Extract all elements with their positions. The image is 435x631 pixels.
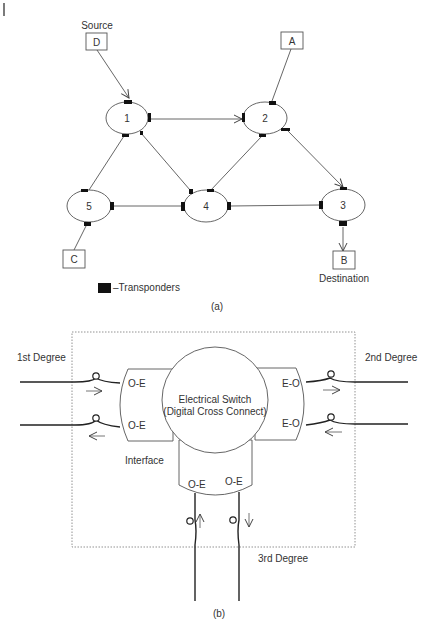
node-2: 2 xyxy=(243,102,287,134)
transponder-icon xyxy=(259,134,266,137)
edge-2-3 xyxy=(287,130,343,187)
amplifier-icon xyxy=(93,373,99,379)
amplifier-icon xyxy=(328,371,334,377)
terminal-a: A xyxy=(281,32,303,49)
terminal-b: B xyxy=(333,251,355,269)
source-label: Source xyxy=(81,20,113,31)
switch-label-line2: (Digital Cross Connect) xyxy=(163,406,266,417)
bottom-port-2: O-E xyxy=(225,476,243,487)
transponder-icon xyxy=(122,134,129,137)
degree2-label: 2nd Degree xyxy=(365,352,418,363)
legend-label: –Transponders xyxy=(113,282,180,293)
edge-a-2 xyxy=(272,49,291,101)
terminal-b-label: B xyxy=(341,255,348,266)
transponder-icon xyxy=(339,221,347,226)
fiber-right-2 xyxy=(306,420,408,425)
node-4: 4 xyxy=(184,190,228,222)
transponder-icon xyxy=(340,187,347,190)
node-3: 3 xyxy=(321,189,365,221)
node-3-label: 3 xyxy=(340,200,346,211)
transponder-icon xyxy=(269,101,276,105)
legend-transponder-icon xyxy=(98,283,111,293)
terminal-c-label: C xyxy=(70,254,77,265)
transponder-icon xyxy=(84,222,91,226)
transponder-icon xyxy=(227,202,231,210)
transponder-icon xyxy=(81,189,88,192)
transponder-icon xyxy=(319,201,323,209)
node-1: 1 xyxy=(106,102,148,134)
destination-label: Destination xyxy=(319,273,369,284)
transponder-icon xyxy=(242,113,245,122)
transponder-icon xyxy=(281,128,290,131)
amplifier-icon xyxy=(93,415,99,421)
right-port-1: E-O xyxy=(282,378,300,389)
node-4-label: 4 xyxy=(203,201,209,212)
edge-4-3 xyxy=(230,205,320,206)
edge-5-c xyxy=(74,224,87,250)
diagram-canvas: Source D A C B Destination 1 xyxy=(0,0,435,631)
terminal-a-label: A xyxy=(289,36,296,47)
node-2-label: 2 xyxy=(262,113,268,124)
bottom-port-1: O-E xyxy=(188,479,206,490)
node-1-label: 1 xyxy=(124,113,130,124)
amplifier-icon xyxy=(230,517,236,523)
node-5-label: 5 xyxy=(86,201,92,212)
edge-1-4 xyxy=(141,133,190,190)
caption-b: (b) xyxy=(213,608,225,619)
figure-b: 1st Degree 2nd Degree 3rd Degree Electri… xyxy=(17,332,418,619)
terminal-d: D xyxy=(86,33,107,50)
left-port-1: O-E xyxy=(128,378,146,389)
node-5: 5 xyxy=(67,190,111,222)
amplifier-icon xyxy=(328,414,334,420)
transponder-icon xyxy=(124,100,132,104)
transponder-icon xyxy=(181,202,185,211)
degree3-label: 3rd Degree xyxy=(258,553,308,564)
terminal-d-label: D xyxy=(93,37,100,48)
fiber-left-1 xyxy=(20,378,120,383)
transponder-icon xyxy=(110,202,114,210)
transponder-icon xyxy=(207,189,214,192)
fiber-right-1 xyxy=(306,378,408,382)
switch-label-line1: Electrical Switch xyxy=(179,394,252,405)
degree1-label: 1st Degree xyxy=(17,352,66,363)
fiber-left-2 xyxy=(20,420,120,427)
transponder-icon xyxy=(148,113,151,122)
amplifier-icon xyxy=(187,518,193,524)
edge-d-1 xyxy=(97,50,129,98)
transponder-icon xyxy=(140,131,143,135)
transponder-icon xyxy=(189,189,193,194)
left-port-2: O-E xyxy=(128,420,146,431)
fiber-bottom-2 xyxy=(238,492,239,601)
edge-2-4 xyxy=(210,136,262,191)
edge-1-5 xyxy=(89,136,124,190)
interface-label: Interface xyxy=(125,455,164,466)
caption-a: (a) xyxy=(211,301,223,312)
terminal-c: C xyxy=(63,250,85,268)
right-port-2: E-O xyxy=(282,418,300,429)
figure-a: Source D A C B Destination 1 xyxy=(63,20,369,312)
